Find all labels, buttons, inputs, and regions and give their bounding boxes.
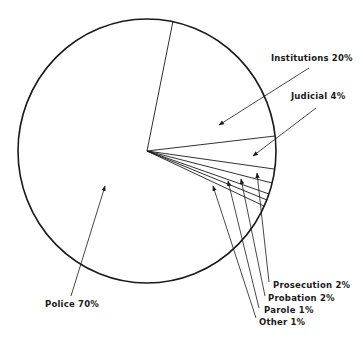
label-institutions: Institutions 20% (271, 53, 353, 63)
label-probation: Probation 2% (268, 293, 335, 303)
label-other: Other 1% (259, 317, 305, 327)
label-police: Police 70% (45, 299, 99, 309)
label-judicial: Judicial 4% (291, 91, 345, 101)
label-parole: Parole 1% (264, 305, 314, 315)
label-prosecution: Prosecution 2% (273, 280, 350, 290)
